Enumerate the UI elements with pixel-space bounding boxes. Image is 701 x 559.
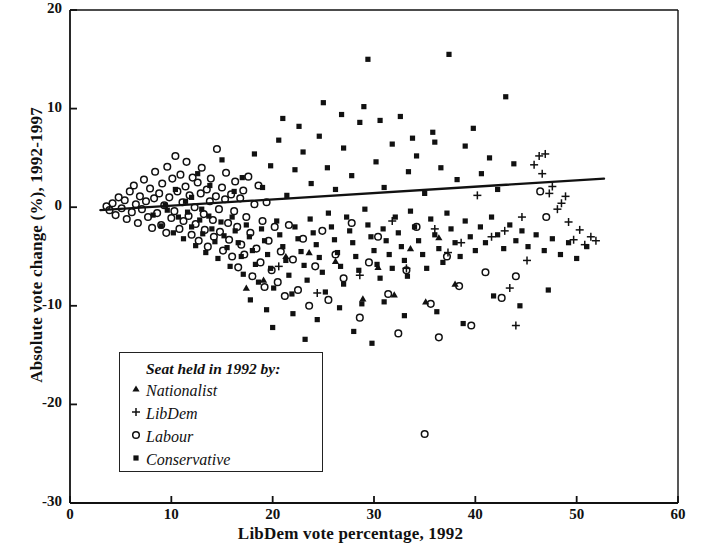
y-tick-label: -30 [18, 493, 62, 510]
triangle-marker-icon [126, 382, 146, 400]
y-tick-label: -20 [18, 394, 62, 411]
legend-item-label: LibDem [146, 405, 198, 423]
y-tick-label: 10 [18, 99, 62, 116]
y-axis-label: Absolute vote change (%), 1992-1997 [27, 80, 47, 410]
square-marker-icon [126, 451, 146, 469]
legend-item-label: Conservative [146, 451, 230, 469]
circle-marker-icon [126, 428, 146, 446]
x-tick-label: 50 [557, 506, 597, 523]
plus-marker-icon [126, 405, 146, 423]
scatter-plot-figure: Absolute vote change (%), 1992-1997 LibD… [0, 0, 701, 559]
y-tick-label: 20 [18, 0, 62, 17]
legend-item-label: Labour [146, 428, 193, 446]
legend-item-nationalist: Nationalist [126, 379, 322, 402]
x-tick-label: 60 [658, 506, 698, 523]
x-tick-label: 40 [455, 506, 495, 523]
series-conservative [150, 52, 589, 346]
legend-rows: NationalistLibDemLabourConservative [120, 379, 322, 471]
y-tick-label: 0 [18, 197, 62, 214]
y-tick-label: -10 [18, 296, 62, 313]
x-tick-label: 30 [354, 506, 394, 523]
legend-item-label: Nationalist [146, 382, 217, 400]
legend-item-labour: Labour [126, 425, 322, 448]
legend-item-libdem: LibDem [126, 402, 322, 425]
x-tick-label: 20 [253, 506, 293, 523]
legend-title: Seat held in 1992 by: [146, 360, 322, 378]
legend-box: Seat held in 1992 by: NationalistLibDemL… [119, 352, 323, 472]
x-axis-label: LibDem vote percentage, 1992 [0, 524, 701, 544]
plot-canvas [0, 0, 701, 559]
legend-item-conservative: Conservative [126, 448, 322, 471]
x-tick-label: 10 [151, 506, 191, 523]
